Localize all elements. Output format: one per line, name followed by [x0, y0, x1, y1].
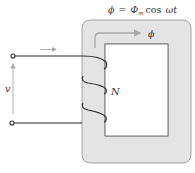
voltage-label: v: [5, 83, 11, 94]
flux-label: ϕ: [148, 28, 155, 39]
magnetic-core: [82, 20, 191, 163]
diagram-canvas: ϕ = Φmcos ωt ϕ N v: [0, 0, 195, 173]
turns-label: N: [110, 86, 121, 97]
terminal-top[interactable]: [11, 54, 15, 58]
terminal-bottom[interactable]: [10, 121, 14, 125]
flux-equation-label: ϕ = Φmcos ωt: [108, 4, 177, 16]
